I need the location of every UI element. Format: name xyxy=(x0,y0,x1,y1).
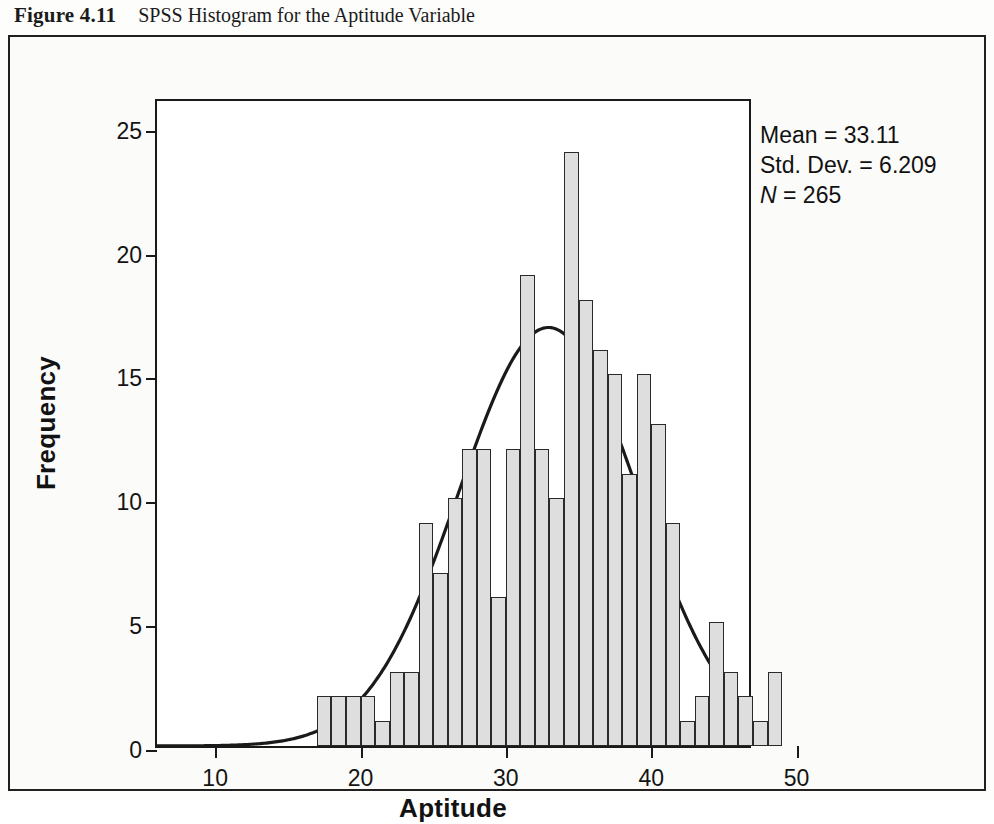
y-axis-label: Frequency xyxy=(31,356,62,490)
histogram-bar xyxy=(433,573,448,746)
figure-title: SPSS Histogram for the Aptitude Variable xyxy=(138,4,475,27)
n-symbol: N xyxy=(760,182,777,208)
x-axis-tick-label: 20 xyxy=(348,765,374,792)
histogram-bar xyxy=(506,449,521,746)
histogram-bar xyxy=(680,721,695,746)
histogram-bar xyxy=(448,498,463,746)
histogram-bar xyxy=(390,672,405,746)
histogram-bar xyxy=(317,696,332,746)
histogram-plot-area: 05101520251020304050 xyxy=(155,99,751,748)
histogram-bar xyxy=(738,696,753,746)
x-axis-tick-label: 40 xyxy=(638,765,664,792)
y-axis-tick xyxy=(146,750,157,752)
histogram-bar xyxy=(695,696,710,746)
histogram-bar xyxy=(709,622,724,746)
histogram-bar xyxy=(549,498,564,746)
figure-number: Figure 4.11 xyxy=(14,3,116,28)
histogram-bar xyxy=(564,152,579,747)
x-axis-tick-label: 30 xyxy=(493,765,519,792)
y-axis-tick xyxy=(146,255,157,257)
histogram-bar xyxy=(361,696,376,746)
histogram-bar xyxy=(491,597,506,746)
x-axis-tick xyxy=(506,746,508,758)
histogram-bar xyxy=(331,696,346,746)
statistics-annotation: Mean = 33.11 Std. Dev. = 6.209 N = 265 xyxy=(760,121,937,211)
histogram-bar xyxy=(375,721,390,746)
mean-stat: Mean = 33.11 xyxy=(760,121,937,151)
y-axis-tick-label: 5 xyxy=(129,613,142,640)
histogram-bar xyxy=(637,374,652,746)
y-axis-tick-label: 0 xyxy=(129,737,142,764)
histogram-bar xyxy=(477,449,492,746)
histogram-bar xyxy=(346,696,361,746)
histogram-bar xyxy=(666,523,681,746)
histogram-bar xyxy=(404,672,419,746)
y-axis-tick-label: 15 xyxy=(116,365,142,392)
y-axis-tick xyxy=(146,131,157,133)
plot-inner: 05101520251020304050 xyxy=(157,101,749,746)
histogram-bar xyxy=(622,474,637,746)
sample-size-stat: N = 265 xyxy=(760,181,937,211)
histogram-bar xyxy=(593,350,608,746)
y-axis-tick xyxy=(146,626,157,628)
x-axis-tick xyxy=(215,746,217,758)
y-axis-tick-label: 25 xyxy=(116,117,142,144)
y-axis-tick-label: 10 xyxy=(116,489,142,516)
histogram-bar xyxy=(520,275,535,746)
y-axis-tick xyxy=(146,378,157,380)
std-dev-stat: Std. Dev. = 6.209 xyxy=(760,151,937,181)
figure-caption: Figure 4.11 SPSS Histogram for the Aptit… xyxy=(0,0,994,30)
y-axis-tick xyxy=(146,502,157,504)
histogram-bar xyxy=(651,424,666,746)
x-axis-label: Aptitude xyxy=(399,793,507,824)
x-axis-tick xyxy=(651,746,653,758)
figure-frame: Frequency Aptitude Mean = 33.11 Std. Dev… xyxy=(8,35,986,791)
histogram-bar xyxy=(753,721,768,746)
x-axis-tick xyxy=(361,746,363,758)
x-axis-tick xyxy=(797,746,799,758)
histogram-bar xyxy=(419,523,434,746)
histogram-bar xyxy=(579,300,594,746)
histogram-bar xyxy=(462,449,477,746)
histogram-bar xyxy=(724,672,739,746)
histogram-bar xyxy=(768,672,783,746)
x-axis-tick-label: 50 xyxy=(784,765,810,792)
x-axis-tick-label: 10 xyxy=(202,765,228,792)
n-value: = 265 xyxy=(777,182,842,208)
y-axis-tick-label: 20 xyxy=(116,241,142,268)
histogram-bar xyxy=(535,449,550,746)
histogram-bar xyxy=(608,374,623,746)
